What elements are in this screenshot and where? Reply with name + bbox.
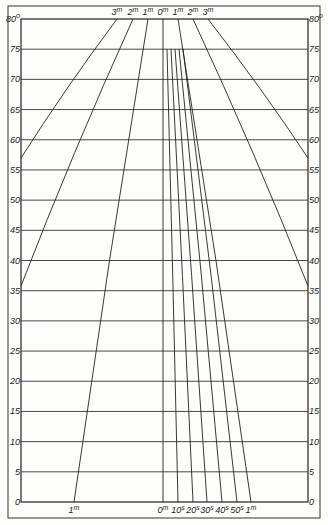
curve-right-3m <box>208 19 308 158</box>
bottom-label-5: 40s <box>215 504 229 515</box>
y-label-left-40: 40 <box>10 256 20 266</box>
y-label-right-15: 15 <box>309 406 320 416</box>
y-label-right-30: 30 <box>309 316 319 326</box>
y-label-left-55: 55 <box>10 165 21 175</box>
top-label-1: 2m <box>127 6 139 17</box>
y-label-right-60: 60 <box>309 135 319 145</box>
curve-right-10s <box>167 49 178 502</box>
bottom-label-7: 1m <box>246 504 257 515</box>
top-label-2: 1m <box>143 6 154 17</box>
y-label-left-0: 0 <box>15 497 20 507</box>
bottom-time-labels: 1m0m10s20s30s40s50s1m <box>69 504 257 515</box>
curve-right-2m <box>193 19 308 286</box>
y-label-left-80: 80o <box>6 12 20 24</box>
y-label-right-70: 70 <box>309 74 319 84</box>
y-label-right-80: 80o <box>309 12 323 24</box>
y-label-left-45: 45 <box>10 225 21 235</box>
y-label-left-30: 30 <box>10 316 20 326</box>
top-time-labels: 3m2m1m0m1m2m3m <box>112 6 214 17</box>
y-label-right-55: 55 <box>309 165 320 175</box>
y-label-left-60: 60 <box>10 135 20 145</box>
y-label-right-20: 20 <box>308 376 319 386</box>
y-label-left-75: 75 <box>10 44 21 54</box>
bottom-label-3: 20s <box>185 504 200 515</box>
curve-right-50s <box>183 49 237 502</box>
y-label-left-50: 50 <box>10 195 20 205</box>
curve-right-40s <box>179 49 222 502</box>
y-label-right-25: 25 <box>308 346 320 356</box>
y-label-left-25: 25 <box>9 346 21 356</box>
bottom-label-0: 1m <box>69 504 80 515</box>
y-label-right-50: 50 <box>309 195 319 205</box>
top-label-5: 2m <box>187 6 199 17</box>
top-label-0: 3m <box>112 6 123 17</box>
curve-right-20s <box>171 49 193 502</box>
y-label-left-5: 5 <box>15 467 21 477</box>
y-label-right-0: 0 <box>309 497 314 507</box>
y-label-left-35: 35 <box>10 286 21 296</box>
y-label-left-70: 70 <box>10 74 20 84</box>
y-label-right-5: 5 <box>309 467 315 477</box>
bottom-label-6: 50s <box>230 504 244 515</box>
nomogram-diagram: 05101520253035404550556065707580o 051015… <box>0 0 328 525</box>
y-label-right-40: 40 <box>309 256 319 266</box>
y-label-right-10: 10 <box>309 437 319 447</box>
horizontal-gridlines <box>21 49 308 472</box>
y-label-right-45: 45 <box>309 225 320 235</box>
curve-left-2m <box>21 19 133 286</box>
top-label-3: 0m <box>158 6 169 17</box>
top-label-4: 1m <box>173 6 184 17</box>
top-label-6: 3m <box>203 6 214 17</box>
y-axis-labels-right: 05101520253035404550556065707580o <box>308 12 323 507</box>
y-label-right-65: 65 <box>309 105 320 115</box>
bottom-label-4: 30s <box>200 504 214 515</box>
y-label-right-35: 35 <box>309 286 320 296</box>
y-label-left-20: 20 <box>9 376 20 386</box>
bottom-label-1: 0m <box>158 504 169 515</box>
bottom-label-2: 10s <box>171 504 185 515</box>
y-label-right-75: 75 <box>309 44 320 54</box>
y-label-left-65: 65 <box>10 105 21 115</box>
y-label-left-10: 10 <box>10 437 20 447</box>
curve-right-30s <box>175 49 207 502</box>
y-label-left-15: 15 <box>10 406 21 416</box>
